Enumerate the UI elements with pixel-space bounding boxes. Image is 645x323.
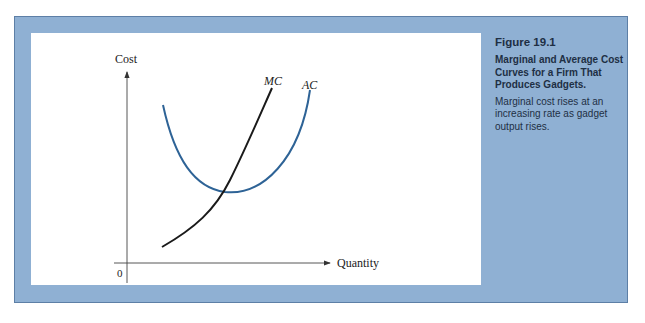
figure-description: Marginal cost rises at an increasing rat… (495, 96, 625, 134)
ac-label: AC (302, 78, 317, 93)
figure-title: Marginal and Average Cost Curves for a F… (495, 54, 625, 92)
y-axis-label: Cost (115, 52, 137, 67)
figure-number: Figure 19.1 (495, 36, 625, 48)
mc-curve (162, 88, 272, 247)
origin-label: 0 (117, 267, 123, 279)
x-axis-label: Quantity (337, 256, 379, 271)
figure-caption: Figure 19.1 Marginal and Average Cost Cu… (495, 36, 625, 133)
ac-curve (163, 90, 310, 192)
mc-label: MC (264, 74, 282, 89)
